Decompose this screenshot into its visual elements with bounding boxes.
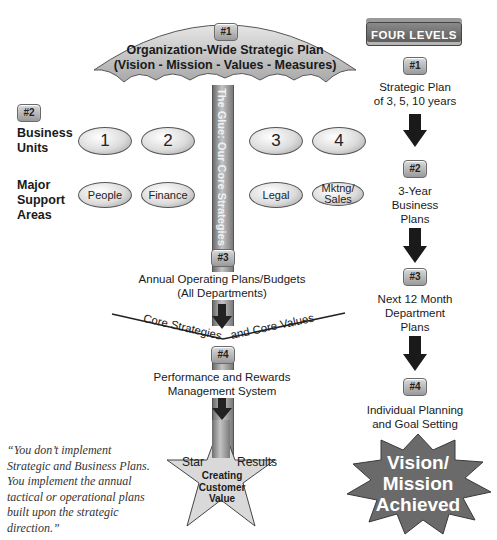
support-area-people: People bbox=[78, 182, 132, 208]
annual-operating-plans: Annual Operating Plans/Budgets (All Depa… bbox=[122, 272, 322, 300]
level-badge-2: #2 bbox=[17, 104, 41, 122]
level-1-strategic-plan: Strategic Plan of 3, 5, 10 years bbox=[350, 80, 480, 108]
four-levels-badge-4: #4 bbox=[403, 378, 427, 396]
star-label: Star bbox=[182, 455, 204, 469]
creating-customer-value: Creating Customer Value bbox=[190, 470, 254, 505]
level-badge-1: #1 bbox=[214, 23, 238, 41]
four-levels-badge-1: #1 bbox=[403, 57, 427, 75]
business-unit-2: 2 bbox=[141, 127, 195, 155]
four-levels-header: FOUR LEVELS bbox=[366, 22, 462, 46]
level-3-department-plans: Next 12 Month Department Plans bbox=[350, 292, 480, 334]
business-unit-4: 4 bbox=[312, 127, 366, 155]
umbrella-title: Organization-Wide Strategic Plan (Vision… bbox=[110, 43, 340, 73]
arrow-down-icon bbox=[403, 114, 427, 148]
business-unit-1: 1 bbox=[78, 127, 132, 155]
pole-core-strategies-text: The Glue: Our Core Strategies bbox=[212, 92, 232, 242]
four-levels-badge-3: #3 bbox=[403, 268, 427, 286]
business-unit-3: 3 bbox=[249, 127, 303, 155]
level-badge-3: #3 bbox=[211, 249, 235, 267]
support-area-legal: Legal bbox=[249, 182, 303, 208]
four-levels-badge-2: #2 bbox=[403, 160, 427, 178]
strategic-plan-subtitle: (Vision - Mission - Values - Measures) bbox=[110, 58, 340, 73]
support-areas-label: Major Support Areas bbox=[17, 178, 65, 223]
implementation-quote: “You don’t implement Strategic and Busin… bbox=[7, 443, 157, 536]
vision-mission-achieved: Vision/ Mission Achieved bbox=[368, 452, 468, 515]
level-4-individual-planning: Individual Planning and Goal Setting bbox=[345, 403, 485, 431]
results-label: Results bbox=[237, 455, 277, 469]
strategic-plan-title: Organization-Wide Strategic Plan bbox=[110, 43, 340, 58]
arrow-down-icon bbox=[403, 228, 427, 264]
performance-rewards-system: Performance and Rewards Management Syste… bbox=[132, 370, 312, 398]
arrow-down-icon bbox=[212, 398, 232, 422]
level-2-business-plans: 3-Year Business Plans bbox=[350, 184, 480, 226]
support-area-finance: Finance bbox=[141, 182, 195, 208]
arrow-down-icon bbox=[403, 336, 427, 372]
level-badge-4: #4 bbox=[211, 346, 235, 364]
business-units-label: Business Units bbox=[17, 126, 73, 156]
